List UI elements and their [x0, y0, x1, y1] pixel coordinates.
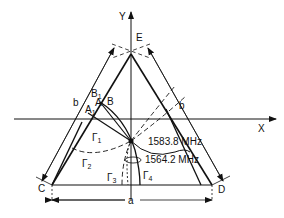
vertex-label-c: C	[38, 183, 45, 194]
triangle-diagram: Y X b b a	[0, 0, 284, 218]
dimension-label-left-b: b	[73, 97, 79, 108]
x-axis-label: X	[258, 123, 265, 134]
dimension-label-right-b: b	[179, 100, 185, 111]
y-axis-label: Y	[119, 11, 126, 22]
frequency-label-1564: 1564.2 MHz	[145, 154, 199, 165]
point-label-b1: B1	[91, 88, 102, 100]
vertex-label-e: E	[136, 32, 143, 43]
center-node	[129, 139, 134, 144]
frequency-label-1583: 1583.8 MHz	[148, 136, 202, 147]
dimension-left-b	[42, 48, 114, 181]
point-label-b: B	[107, 96, 114, 107]
region-label-gamma1: Γ1	[92, 132, 102, 144]
vertex-ticks	[36, 44, 230, 200]
vertex-label-d: D	[218, 184, 225, 195]
region-label-gamma2: Γ2	[82, 158, 92, 170]
region-label-gamma4: Γ4	[143, 170, 153, 182]
feed-ellipse	[125, 157, 141, 163]
dimension-label-base-a: a	[128, 195, 134, 206]
region-label-gamma3: Γ3	[107, 172, 117, 184]
